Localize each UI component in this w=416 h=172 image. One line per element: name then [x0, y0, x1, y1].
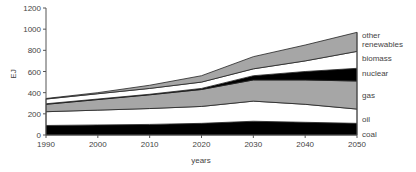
x-tick-label: 2010 — [141, 140, 159, 149]
y-tick-label: 200 — [28, 110, 42, 119]
x-tick-label: 1990 — [37, 140, 55, 149]
legend-nuclear: nuclear — [362, 69, 389, 78]
x-axis-label: years — [191, 156, 211, 165]
legend-gas: gas — [362, 91, 375, 100]
y-tick-label: 0 — [37, 131, 42, 140]
y-tick-label: 1200 — [23, 4, 41, 13]
y-tick-label: 1000 — [23, 25, 41, 34]
y-axis-label: EJ — [9, 69, 18, 78]
x-tick-label: 2000 — [89, 140, 107, 149]
stacked-area-chart: 0200400600800100012001990200020102020203… — [0, 0, 416, 172]
legend: other renewables biomass nuclear gas oil… — [362, 31, 403, 139]
y-tick-label: 600 — [28, 68, 42, 77]
x-tick-label: 2040 — [296, 140, 314, 149]
legend-renewables: renewables — [362, 40, 403, 49]
area-layers — [46, 32, 357, 135]
legend-biomass: biomass — [362, 54, 392, 63]
legend-other: other — [362, 31, 381, 40]
y-tick-label: 400 — [28, 89, 42, 98]
x-tick-label: 2030 — [244, 140, 262, 149]
legend-oil: oil — [362, 115, 370, 124]
legend-coal: coal — [362, 130, 377, 139]
x-tick-label: 2050 — [348, 140, 366, 149]
y-tick-label: 800 — [28, 46, 42, 55]
x-tick-label: 2020 — [193, 140, 211, 149]
